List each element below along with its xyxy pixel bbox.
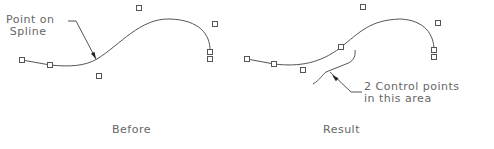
area-bracket	[313, 50, 355, 84]
annotation-line: in this area	[364, 93, 460, 105]
control-point-marker	[361, 5, 366, 10]
control-point-marker	[432, 48, 437, 53]
leader-line	[330, 72, 362, 92]
diagram-canvas	[0, 0, 494, 149]
control-point-marker	[208, 50, 213, 55]
control-point-marker	[208, 57, 213, 62]
caption-before: Before	[112, 124, 151, 136]
control-point-marker	[436, 21, 441, 26]
leader-line	[68, 21, 96, 59]
annotation-line: Spline	[6, 26, 55, 38]
control-point-marker	[339, 45, 344, 50]
arrowhead-icon	[332, 75, 339, 81]
panel-result	[245, 5, 441, 93]
control-point-marker	[20, 58, 25, 63]
caption-result: Result	[323, 124, 360, 136]
annotation-control-points: 2 Control points in this area	[364, 81, 460, 105]
annotation-point-on-spline: Point on Spline	[6, 14, 55, 38]
spline-diagram: Point on Spline Before 2 Control points …	[0, 0, 494, 149]
control-point-marker	[97, 74, 102, 79]
control-point-marker	[245, 57, 250, 62]
control-point-marker	[432, 55, 437, 60]
control-points	[245, 5, 441, 73]
control-point-marker	[48, 63, 53, 68]
control-point-marker	[272, 62, 277, 67]
spline-curve	[247, 19, 434, 65]
arrowhead-icon	[91, 52, 96, 59]
control-point-marker	[301, 68, 306, 73]
control-point-marker	[137, 6, 142, 11]
control-point-marker	[213, 22, 218, 27]
